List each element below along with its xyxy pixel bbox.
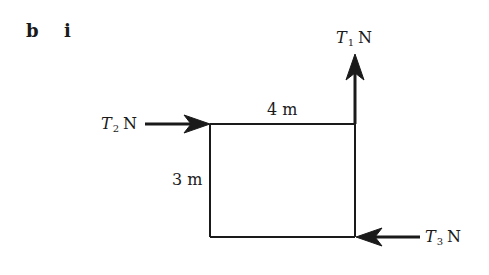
force-unit: N [447,227,461,246]
force-unit: N [123,114,137,133]
force-subscript: 1 [348,37,354,48]
force-symbol: T [425,227,436,246]
force-symbol: T [101,114,112,133]
force-diagram [0,0,489,275]
force-subscript: 3 [437,236,443,247]
force-arrow-t3 [356,228,420,246]
force-subscript: 2 [113,123,119,134]
force-unit: N [358,28,372,47]
force-arrow-t2 [145,115,210,133]
force-label-t2: T2N [101,116,137,134]
force-arrow-t1 [346,54,364,124]
width-dimension-label: 4 m [267,102,297,118]
force-symbol: T [336,28,347,47]
height-dimension-label: 3 m [172,172,202,188]
rectangle-lamina [210,124,355,237]
force-label-t3: T3N [425,229,461,247]
force-label-t1: T1N [336,30,372,48]
